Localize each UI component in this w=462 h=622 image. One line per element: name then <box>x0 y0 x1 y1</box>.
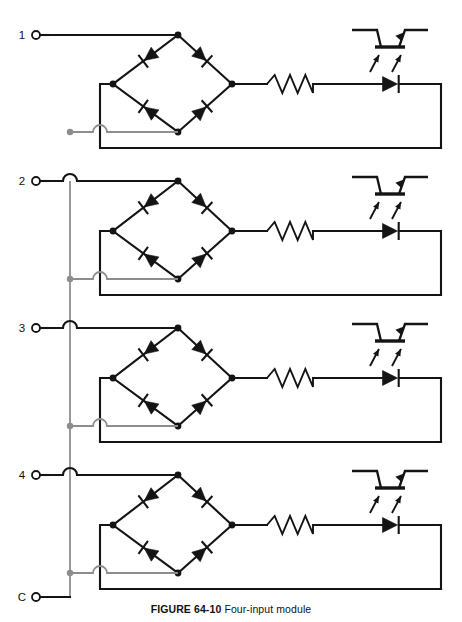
figure-caption-text: Four-input module <box>224 603 311 615</box>
common-bus-junction <box>67 276 73 282</box>
input-terminal-1-ring <box>32 31 40 39</box>
input-terminal-2-ring <box>32 177 40 185</box>
common-terminal-c-label: C <box>18 591 26 603</box>
input-terminal-4-label: 4 <box>19 469 26 481</box>
figure-container: 1234C FIGURE 64-10 Four-input module <box>0 0 462 622</box>
common-bus-junction <box>67 423 73 429</box>
bridge-node-ac-top <box>175 178 182 185</box>
bridge-node-ac-top <box>175 472 182 479</box>
common-bus-junction <box>67 129 73 135</box>
figure-caption: FIGURE 64-10 Four-input module <box>0 603 462 615</box>
input-terminal-1-label: 1 <box>19 29 25 41</box>
common-bus-junction <box>67 570 73 576</box>
circuit-schematic: 1234C <box>0 0 462 622</box>
input-terminal-3-label: 3 <box>19 322 25 334</box>
input-terminal-2-label: 2 <box>19 175 25 187</box>
common-terminal-c-ring <box>32 593 40 601</box>
input-terminal-3-ring <box>32 324 40 332</box>
figure-caption-id: FIGURE 64-10 <box>151 603 222 615</box>
input-terminal-4-ring <box>32 471 40 479</box>
bridge-node-ac-top <box>175 325 182 332</box>
bridge-node-ac-top <box>175 32 182 39</box>
